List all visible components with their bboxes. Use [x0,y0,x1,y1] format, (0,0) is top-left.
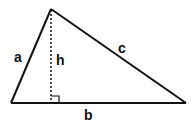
right-angle-marker [51,96,59,103]
label-h: h [56,52,65,68]
side-c-line [51,9,186,103]
label-c: c [118,40,126,56]
label-b: b [84,107,93,121]
label-a: a [14,49,22,65]
triangle-diagram: a h c b [0,0,195,121]
